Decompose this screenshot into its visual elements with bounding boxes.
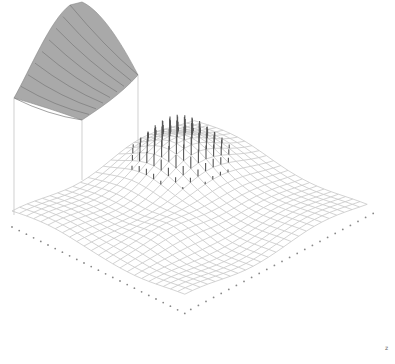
axis-label: z <box>385 344 388 351</box>
base-dots <box>11 213 374 315</box>
wireframe-plot <box>0 0 395 364</box>
figure: z <box>0 0 395 364</box>
mesh-surface <box>12 121 367 295</box>
